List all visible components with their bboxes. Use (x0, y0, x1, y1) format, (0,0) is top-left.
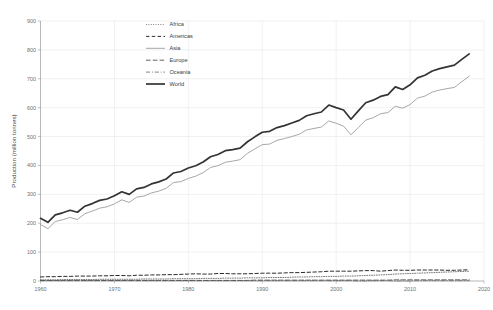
y-axis-tick-labels: 0100200300400500600700800900 (27, 18, 36, 284)
legend-item-africa[interactable]: Africa (146, 21, 185, 27)
x-tick-label: 2000 (330, 286, 342, 292)
axes (38, 21, 484, 284)
legend-label: World (170, 81, 185, 87)
legend-item-asia[interactable]: Asia (146, 45, 181, 51)
chart-container: 0100200300400500600700800900 19601970198… (0, 0, 493, 310)
legend-item-oceania[interactable]: Oceania (146, 69, 191, 75)
y-tick-label: 100 (27, 249, 36, 255)
line-chart: 0100200300400500600700800900 19601970198… (0, 0, 493, 310)
legend-label: Asia (170, 45, 182, 51)
x-tick-label: 1960 (35, 286, 47, 292)
legend-label: Africa (170, 21, 185, 27)
y-tick-label: 900 (27, 18, 36, 24)
legend-label: Americas (170, 33, 194, 39)
y-tick-label: 800 (27, 47, 36, 53)
y-tick-label: 200 (27, 220, 36, 226)
y-tick-label: 300 (27, 191, 36, 197)
series-line-asia (41, 76, 470, 229)
series-line-americas (41, 270, 470, 277)
chart-legend: AfricaAmericasAsiaEuropeOceaniaWorld (146, 21, 193, 87)
y-tick-label: 700 (27, 76, 36, 82)
x-tick-label: 1970 (108, 286, 120, 292)
legend-item-americas[interactable]: Americas (146, 33, 193, 39)
series-line-world (41, 54, 470, 222)
y-tick-label: 500 (27, 134, 36, 140)
x-tick-label: 1980 (182, 286, 194, 292)
gridlines (41, 21, 485, 281)
legend-item-europe[interactable]: Europe (146, 57, 188, 63)
x-tick-label: 2010 (404, 286, 416, 292)
legend-label: Europe (170, 57, 188, 63)
series-line-europe (41, 280, 470, 281)
y-tick-label: 400 (27, 162, 36, 168)
data-series (41, 54, 470, 281)
x-tick-label: 2020 (478, 286, 490, 292)
x-axis-tick-labels: 1960197019801990200020102020 (35, 286, 491, 292)
x-tick-label: 1990 (256, 286, 268, 292)
y-tick-label: 600 (27, 105, 36, 111)
y-axis-title: Production (million tonnes) (10, 114, 17, 187)
y-tick-label: 0 (33, 278, 36, 284)
legend-item-world[interactable]: World (146, 81, 184, 87)
legend-label: Oceania (170, 69, 192, 75)
